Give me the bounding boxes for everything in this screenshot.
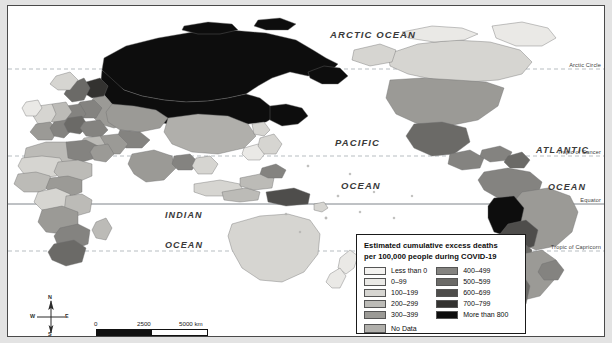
- legend-label-less-than-0: Less than 0: [391, 267, 427, 274]
- scale-bar: 0 2500 5000 km: [96, 320, 208, 337]
- compass-north: N: [48, 294, 52, 300]
- legend-swatch-300-399: [364, 311, 386, 320]
- legend-label-700-799: 700–799: [463, 300, 490, 307]
- scale-bar-track: [96, 329, 208, 336]
- legend-title: Estimated cumulative excess deaths per 1…: [364, 240, 518, 262]
- scale-segment-empty: [152, 330, 207, 335]
- map-legend: Estimated cumulative excess deaths per 1…: [356, 234, 526, 334]
- legend-swatch-700-799: [436, 300, 458, 309]
- ocean-label-pacific: PACIFIC: [335, 134, 380, 153]
- legend-label-400-499: 400–499: [463, 267, 490, 274]
- ocean-label-indian-2: OCEAN: [165, 237, 203, 255]
- legend-item-0-99[interactable]: 0–99: [364, 277, 427, 287]
- legend-column-right: 400–499 500–599 600–699 700–799: [436, 266, 508, 320]
- legend-item-700-799[interactable]: 700–799: [436, 299, 508, 309]
- label-equator: Equator: [580, 197, 601, 203]
- legend-label-0-99: 0–99: [391, 278, 407, 285]
- map-frame: .cty { stroke:#6d6d6d; stroke-width:.4; …: [7, 5, 605, 337]
- compass-east: E: [65, 313, 69, 319]
- legend-swatch-no-data: [364, 324, 386, 333]
- legend-item-500-599[interactable]: 500–599: [436, 277, 508, 287]
- legend-item-no-data[interactable]: No Data: [364, 324, 518, 334]
- legend-item-300-399[interactable]: 300–399: [364, 310, 427, 320]
- legend-swatch-600-699: [436, 289, 458, 298]
- legend-label-600-699: 600–699: [463, 289, 490, 296]
- legend-item-more-than-800[interactable]: More than 800: [436, 310, 508, 320]
- legend-swatch-500-599: [436, 278, 458, 287]
- scale-tick-1: 2500: [137, 320, 151, 327]
- legend-title-line2: per 100,000 people during COVID-19: [364, 251, 518, 262]
- legend-item-400-499[interactable]: 400–499: [436, 266, 508, 276]
- ocean-label-pacific-2: OCEAN: [341, 177, 381, 196]
- legend-label-200-299: 200–299: [391, 300, 418, 307]
- legend-swatch-200-299: [364, 300, 386, 309]
- label-tropic-of-capricorn: Tropic of Capricorn: [551, 244, 601, 250]
- legend-columns: Less than 0 0–99 100–199 200–299: [364, 266, 518, 320]
- ocean-label-arctic: ARCTIC OCEAN: [330, 26, 416, 45]
- legend-label-300-399: 300–399: [391, 311, 418, 318]
- ocean-label-atlantic-2: OCEAN: [548, 179, 586, 197]
- legend-item-200-299[interactable]: 200–299: [364, 299, 427, 309]
- compass-rose: N S W E: [30, 294, 72, 337]
- world-map-figure: .cty { stroke:#6d6d6d; stroke-width:.4; …: [0, 0, 612, 343]
- legend-swatch-less-than-0: [364, 267, 386, 276]
- legend-label-500-599: 500–599: [463, 278, 490, 285]
- legend-swatch-more-than-800: [436, 311, 458, 320]
- scale-segment-filled: [97, 330, 152, 335]
- legend-swatch-100-199: [364, 289, 386, 298]
- label-tropic-of-cancer: Tropic of Cancer: [557, 149, 601, 155]
- label-arctic-circle: Arctic Circle: [569, 62, 601, 68]
- legend-swatch-0-99: [364, 278, 386, 287]
- legend-column-left: Less than 0 0–99 100–199 200–299: [364, 266, 427, 320]
- legend-label-100-199: 100–199: [391, 289, 418, 296]
- legend-item-less-than-0[interactable]: Less than 0: [364, 266, 427, 276]
- compass-west: W: [30, 313, 35, 319]
- ocean-label-indian: INDIAN: [165, 207, 203, 225]
- scale-tick-2: 5000 km: [179, 320, 203, 327]
- legend-label-more-than-800: More than 800: [463, 311, 508, 318]
- legend-title-line1: Estimated cumulative excess deaths: [364, 240, 518, 251]
- legend-swatch-400-499: [436, 267, 458, 276]
- compass-south: S: [48, 331, 52, 337]
- scale-tick-0: 0: [94, 320, 97, 327]
- legend-item-600-699[interactable]: 600–699: [436, 288, 508, 298]
- legend-item-100-199[interactable]: 100–199: [364, 288, 427, 298]
- legend-label-no-data: No Data: [391, 325, 417, 332]
